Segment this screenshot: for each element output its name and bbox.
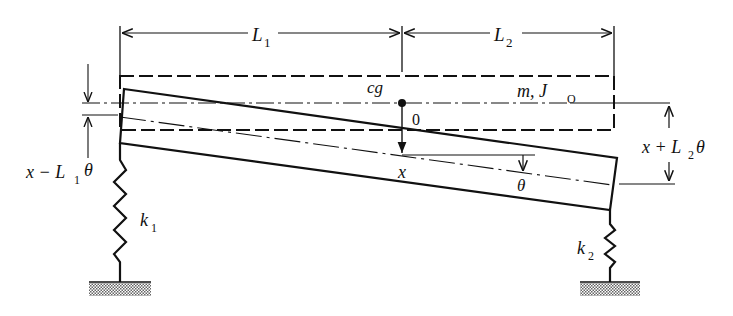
left-displacement-label: x − L	[25, 162, 65, 182]
origin-label: 0	[412, 111, 420, 128]
k2-subscript: 2	[588, 249, 594, 263]
right-displacement-indicator: x + L 2 θ	[619, 106, 705, 184]
left-displacement-subscript: 1	[74, 173, 80, 187]
left-displacement-theta: θ	[84, 160, 93, 180]
L1-label: L	[251, 24, 263, 45]
ground-right	[580, 282, 640, 296]
ground-left	[89, 282, 151, 296]
right-displacement-label: x + L	[641, 137, 681, 157]
displaced-centerline	[120, 117, 612, 185]
L2-subscript: 2	[506, 35, 513, 50]
dimension-L2: L 2	[402, 24, 614, 78]
mass-inertia-label: m, J	[517, 81, 548, 101]
right-displacement-theta: θ	[696, 137, 705, 157]
displaced-beam	[120, 89, 617, 210]
L2-label: L	[493, 24, 505, 45]
k1-subscript: 1	[151, 221, 157, 235]
left-offset-indicator	[82, 64, 118, 158]
mass-inertia-subscript: O	[567, 92, 576, 106]
right-displacement-subscript: 2	[688, 148, 694, 162]
L1-subscript: 1	[264, 35, 271, 50]
cg-label: cg	[367, 78, 383, 97]
x-label: x	[397, 162, 406, 182]
spring-k2: k 2	[577, 210, 615, 282]
dimension-L1: L 1	[120, 24, 400, 78]
left-displacement-label-group: x − L 1 θ	[25, 160, 93, 187]
k1-label: k	[140, 210, 149, 230]
k2-label: k	[577, 238, 586, 258]
beam-spring-diagram: L 1 L 2 cg 0 x θ m, J O x + L 2 θ	[0, 0, 733, 316]
theta-label: θ	[517, 176, 525, 195]
spring-k1: k 1	[114, 143, 157, 282]
